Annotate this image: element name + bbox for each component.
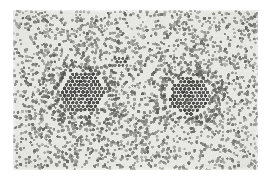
- figure-root: [0, 0, 269, 185]
- particle-field-canvas: [13, 10, 258, 170]
- micrograph-plate: [13, 10, 258, 170]
